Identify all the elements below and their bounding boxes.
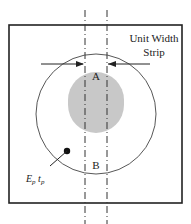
plate-property-label: Ep tp: [25, 173, 45, 186]
strip-label-line2: Strip: [143, 46, 165, 58]
region-a-label: A: [92, 70, 100, 82]
left-arrowhead-icon: [76, 61, 84, 67]
strip-label-line1: Unit Width: [129, 32, 179, 44]
plate-strip-diagram: Unit Width Strip A B Ep tp: [0, 0, 191, 224]
right-arrowhead-icon: [108, 61, 116, 67]
region-b-label: B: [92, 159, 99, 171]
plate-leader-line: [50, 151, 67, 166]
